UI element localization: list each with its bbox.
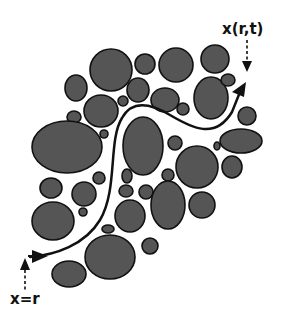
particle bbox=[135, 54, 155, 74]
particle bbox=[177, 103, 189, 115]
particle bbox=[119, 185, 133, 197]
particle bbox=[90, 49, 132, 91]
particle bbox=[214, 142, 220, 150]
particle bbox=[118, 96, 128, 106]
particle bbox=[100, 130, 108, 138]
particle bbox=[159, 48, 193, 82]
particle bbox=[221, 74, 235, 86]
particle bbox=[123, 117, 163, 175]
particle bbox=[139, 185, 153, 199]
particle bbox=[201, 45, 229, 73]
particle bbox=[115, 200, 145, 232]
particle-trajectory-diagram bbox=[0, 0, 283, 327]
particle bbox=[32, 202, 74, 240]
particle bbox=[151, 181, 185, 229]
particle bbox=[93, 172, 105, 184]
particle bbox=[162, 169, 174, 181]
particle bbox=[220, 129, 262, 153]
particle bbox=[122, 169, 132, 183]
particle bbox=[102, 225, 114, 233]
start-position-label: x=r bbox=[10, 290, 40, 308]
particle bbox=[65, 75, 87, 101]
particles-group bbox=[32, 45, 262, 287]
particle bbox=[79, 208, 87, 216]
particle bbox=[142, 238, 158, 254]
end-label-arrow-icon bbox=[242, 61, 252, 72]
particle bbox=[40, 178, 62, 198]
particle bbox=[52, 261, 86, 287]
particle bbox=[176, 146, 218, 188]
particle bbox=[32, 121, 102, 173]
particle bbox=[127, 78, 149, 102]
particle bbox=[84, 95, 118, 127]
start-label-arrow-icon bbox=[20, 258, 30, 270]
particle bbox=[85, 235, 135, 279]
particle bbox=[238, 107, 256, 125]
end-position-label: x(r,t) bbox=[222, 20, 263, 38]
particle bbox=[72, 182, 96, 206]
particle bbox=[168, 136, 182, 150]
particle bbox=[222, 156, 242, 178]
particle bbox=[189, 192, 215, 218]
